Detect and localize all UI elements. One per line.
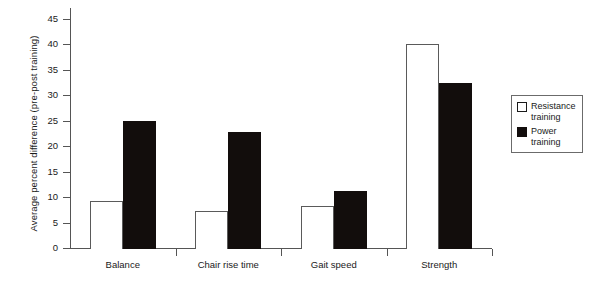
bar-chair-rise-time-power-training bbox=[228, 132, 261, 249]
y-tick-20 bbox=[63, 146, 71, 147]
y-tick-35 bbox=[63, 70, 71, 71]
chart-legend: Resistancetraining Powertraining bbox=[511, 95, 583, 153]
category-separator-2 bbox=[281, 249, 282, 256]
legend-swatch-black-square bbox=[517, 127, 527, 137]
category-separator-4 bbox=[492, 249, 493, 256]
y-tick-5 bbox=[63, 223, 71, 224]
y-tick-label-40: 40 bbox=[36, 39, 58, 48]
y-tick-40 bbox=[63, 44, 71, 45]
y-tick-label-30: 30 bbox=[36, 90, 58, 99]
category-separator-1 bbox=[176, 249, 177, 256]
bar-gait-speed-power-training bbox=[334, 191, 367, 249]
category-label-strength: Strength bbox=[379, 259, 499, 270]
y-tick-0 bbox=[63, 248, 71, 249]
y-tick-label-15: 15 bbox=[36, 167, 58, 176]
y-tick-label-20: 20 bbox=[36, 141, 58, 150]
y-tick-10 bbox=[63, 197, 71, 198]
bar-gait-speed-resistance-training bbox=[301, 206, 334, 249]
legend-label-power-training: Powertraining bbox=[531, 126, 579, 147]
category-label-balance: Balance bbox=[63, 259, 183, 270]
y-tick-15 bbox=[63, 172, 71, 173]
y-tick-label-35: 35 bbox=[36, 65, 58, 74]
y-tick-label-25: 25 bbox=[36, 116, 58, 125]
category-label-chair-rise-time: Chair rise time bbox=[168, 259, 288, 270]
y-tick-label-5: 5 bbox=[36, 218, 58, 227]
category-separator-3 bbox=[387, 249, 388, 256]
y-tick-45 bbox=[63, 19, 71, 20]
category-label-gait-speed: Gait speed bbox=[274, 259, 394, 270]
y-tick-label-10: 10 bbox=[36, 192, 58, 201]
bar-chair-rise-time-resistance-training bbox=[195, 211, 228, 249]
y-tick-label-45: 45 bbox=[36, 14, 58, 23]
y-tick-label-0: 0 bbox=[36, 243, 58, 252]
legend-swatch-white-square bbox=[517, 102, 527, 112]
bar-strength-power-training bbox=[439, 83, 472, 249]
legend-item-power-training: Powertraining bbox=[517, 126, 579, 147]
y-tick-30 bbox=[63, 95, 71, 96]
bar-strength-resistance-training bbox=[406, 44, 439, 249]
bar-balance-resistance-training bbox=[90, 201, 123, 249]
bar-balance-power-training bbox=[123, 121, 156, 249]
legend-label-resistance-training: Resistancetraining bbox=[531, 101, 579, 122]
y-tick-25 bbox=[63, 121, 71, 122]
bar-chart-figure: Average percent difference (pre-post tra… bbox=[0, 0, 594, 285]
legend-item-resistance-training: Resistancetraining bbox=[517, 101, 579, 122]
